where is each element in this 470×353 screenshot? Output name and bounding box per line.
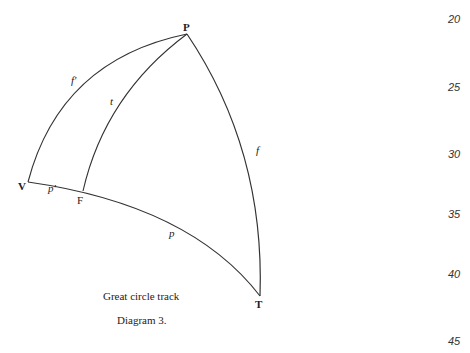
arc-f (187, 34, 260, 296)
caption-figure: Diagram 3. (117, 314, 166, 326)
arc-t (83, 34, 187, 191)
arc-label-p: p (169, 228, 175, 239)
margin-line-number: 35 (448, 208, 460, 220)
caption-title: Great circle track (103, 290, 179, 302)
point-f-label: F (77, 195, 83, 206)
point-t-label: T (255, 299, 262, 310)
arc-label-f: f (256, 145, 259, 156)
margin-line-number: 30 (448, 148, 460, 160)
point-v-label: V (18, 181, 26, 192)
arc-p (28, 182, 260, 296)
arc-label-p-prime: p' (48, 183, 56, 194)
great-circle-diagram (0, 0, 470, 353)
arc-label-f-prime: f' (71, 75, 76, 86)
point-p-label: P (183, 22, 190, 33)
arc-f-prime (28, 34, 187, 182)
margin-line-number: 20 (448, 13, 460, 25)
margin-line-number: 45 (448, 335, 460, 347)
margin-line-number: 40 (448, 268, 460, 280)
margin-line-number: 25 (448, 81, 460, 93)
arc-label-t: t (110, 96, 113, 107)
